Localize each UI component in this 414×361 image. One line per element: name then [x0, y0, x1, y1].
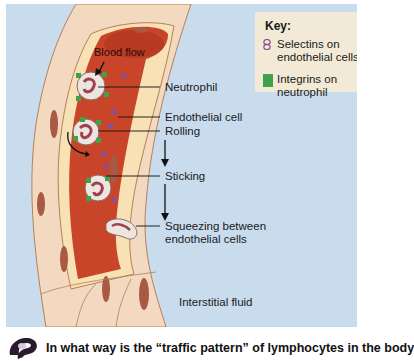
blood-flow-label: Blood flow [94, 46, 145, 58]
endothelial-cell-label: Endothelial cell [165, 111, 242, 124]
question-text: In what way is the “traffic pattern” of … [46, 341, 414, 355]
neutrophil-label: Neutrophil [165, 81, 217, 94]
selectin-icon [263, 39, 271, 50]
squeezing-label-line1: Squeezing between [165, 220, 266, 233]
interstitial-fluid-label: Interstitial fluid [179, 296, 253, 309]
question-mark-icon [6, 335, 40, 361]
question-prompt: In what way is the “traffic pattern” of … [6, 328, 357, 361]
key-selectins-line1: Selectins on [277, 38, 340, 51]
key-integrins-line1: Integrins on [277, 73, 337, 86]
key-legend: Key: Selectins on endothelial cells Inte… [255, 12, 357, 92]
integrin-swatch-icon [263, 74, 273, 87]
key-selectins-line2: endothelial cells [277, 51, 357, 64]
key-integrins-line2: neutrophil [277, 86, 328, 99]
squeezing-label-line2: endothelial cells [165, 233, 247, 246]
leukocyte-migration-diagram: Blood flow Neutrophil Endothelial cell R… [6, 4, 357, 327]
rolling-label: Rolling [165, 125, 200, 138]
key-title: Key: [265, 19, 291, 33]
sticking-label: Sticking [165, 170, 205, 183]
neutrophil-cell [77, 72, 105, 100]
